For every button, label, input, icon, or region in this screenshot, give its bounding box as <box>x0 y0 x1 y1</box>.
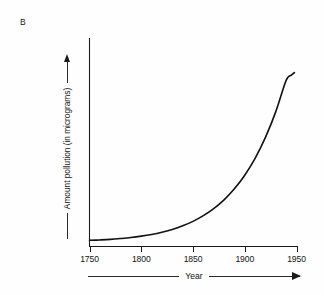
x-axis-tick-label: 1900 <box>235 254 254 264</box>
x-axis-label-rule-left <box>88 276 179 277</box>
x-axis-label: Year <box>179 271 208 281</box>
plot-area <box>0 0 324 295</box>
arrow-right-icon-head <box>292 272 301 280</box>
x-axis-tick-label: 1850 <box>184 254 203 264</box>
x-axis-ticks <box>91 247 298 252</box>
data-curve-pollution <box>90 73 295 241</box>
chart-figure: B Amount pollution (in micrograms) 17501… <box>0 0 324 295</box>
x-axis-tick-label: 1950 <box>287 254 306 264</box>
arrow-right-icon <box>209 276 300 277</box>
x-axis-tick-label: 1800 <box>132 254 151 264</box>
x-axis-label-group: Year <box>88 269 300 283</box>
x-axis-tick-label: 1750 <box>80 254 99 264</box>
